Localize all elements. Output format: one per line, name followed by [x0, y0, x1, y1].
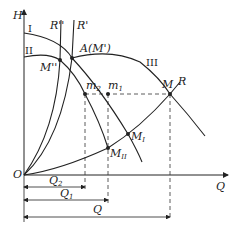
label-M-double-prime: M'' — [39, 61, 57, 74]
label-Q1: Q1 — [60, 187, 74, 201]
curve-II — [24, 55, 108, 148]
label-h-axis: H — [12, 9, 23, 22]
label-M: M — [161, 78, 174, 91]
label-R: R — [177, 75, 186, 88]
label-curve-II: II — [25, 45, 33, 56]
points — [58, 56, 172, 150]
label-Q2: Q2 — [49, 174, 63, 188]
label-curve-I: I — [28, 23, 32, 34]
diagram-canvas: H Q O I II III R'' R' R A(M') M'' m2 m1 … — [0, 0, 238, 234]
dashed-guides — [85, 94, 170, 220]
pump-characteristic-diagram: H Q O I II III R'' R' R A(M') M'' m2 m1 … — [0, 0, 238, 234]
label-m2: m2 — [86, 79, 101, 93]
label-R-prime: R' — [76, 19, 88, 32]
label-m1: m1 — [108, 79, 123, 93]
label-R-double-prime: R'' — [49, 19, 64, 32]
label-q-axis: Q — [216, 180, 225, 193]
label-M-I: MI — [130, 130, 145, 144]
label-origin: O — [13, 168, 22, 181]
label-curve-III: III — [146, 57, 158, 68]
label-Q: Q — [93, 203, 102, 216]
label-M-II: MII — [109, 147, 127, 161]
label-A: A(M') — [79, 42, 111, 55]
curve-III — [72, 54, 205, 136]
axes — [24, 10, 228, 175]
curve-R-prime — [24, 20, 74, 175]
